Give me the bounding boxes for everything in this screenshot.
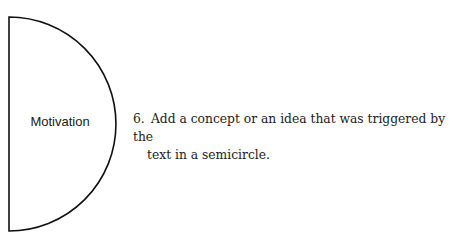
instruction-line-2: text in a semicircle. [133, 146, 451, 164]
instruction-line-1: Add a concept or an idea that was trigge… [133, 112, 445, 144]
instruction-number: 6. [133, 110, 147, 128]
instruction-item: 6. Add a concept or an idea that was tri… [133, 110, 451, 164]
semicircle-label: Motivation [20, 114, 100, 129]
